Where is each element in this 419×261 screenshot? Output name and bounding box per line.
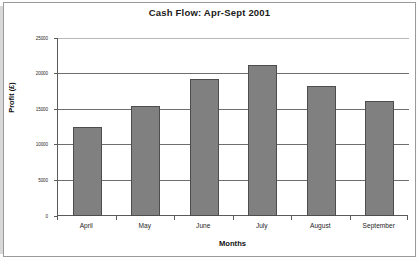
x-axis-label: August — [310, 222, 331, 229]
x-axis-tick — [291, 216, 292, 220]
bar — [248, 65, 277, 216]
y-axis-tick-label: 5000 — [38, 177, 48, 182]
bar — [307, 86, 336, 216]
x-axis-tick — [57, 216, 58, 220]
plot-area: 0500010000150002000025000 — [57, 38, 408, 216]
y-axis-tick-label: 25000 — [36, 35, 48, 40]
x-axis-tick — [407, 216, 408, 220]
x-axis-label: May — [139, 222, 151, 229]
x-axis-tick — [233, 216, 234, 220]
x-axis-tick — [116, 216, 117, 220]
y-axis-tick-label: 10000 — [36, 142, 48, 147]
bar — [131, 106, 160, 216]
bar-series — [58, 38, 409, 216]
bar — [73, 127, 102, 216]
x-axis-label: April — [80, 222, 93, 229]
x-axis-label: July — [256, 222, 268, 229]
chart-page: Cash Flow: Apr-Sept 2001 Profit (£) 0500… — [0, 0, 419, 261]
x-axis-labels: AprilMayJuneJulyAugustSeptember — [57, 222, 408, 236]
y-axis-tick-label: 15000 — [36, 106, 48, 111]
x-axis-label: June — [196, 222, 210, 229]
x-axis-label: September — [363, 222, 395, 229]
x-axis-ticks — [57, 216, 408, 221]
chart-title: Cash Flow: Apr-Sept 2001 — [0, 7, 419, 18]
x-axis-title: Months — [57, 239, 408, 248]
y-axis-tick-label: 20000 — [36, 71, 48, 76]
x-axis-tick — [350, 216, 351, 220]
bar — [365, 101, 394, 216]
y-axis-title: Profit (£) — [7, 63, 16, 133]
x-axis-tick — [174, 216, 175, 220]
bar — [190, 79, 219, 216]
y-axis-tick-label: 0 — [46, 213, 48, 218]
